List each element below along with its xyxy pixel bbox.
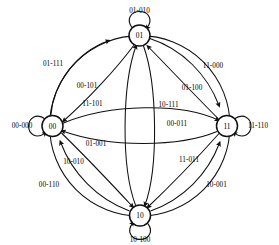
state-label-00: 00 bbox=[49, 122, 57, 131]
edge-label-11-to-01: 01-100 bbox=[182, 84, 203, 92]
edge-label-01-to-11: 11-000 bbox=[203, 62, 224, 70]
edge-label-11-to-10: 11-011 bbox=[179, 156, 199, 164]
edge-10-to-00 bbox=[61, 142, 130, 211]
edge-label-11-to-00: 00-011 bbox=[167, 120, 188, 128]
edge-00-to-11 bbox=[63, 108, 218, 123]
edge-01-to-11 bbox=[150, 39, 219, 106]
self-loop-label-10: 10-100 bbox=[130, 236, 151, 244]
edge-label-00-to-11: 11-101 bbox=[82, 100, 103, 108]
edge-label-00-to-01: 01-111 bbox=[43, 60, 63, 68]
self-loop-label-11: 11-110 bbox=[248, 122, 268, 130]
edge-label-01-to-00: 00-101 bbox=[77, 82, 98, 90]
edge-01-to-10 bbox=[144, 46, 155, 205]
state-label-11: 11 bbox=[223, 122, 230, 131]
state-label-01: 01 bbox=[136, 31, 144, 40]
edge-label-10-to-11: 10-001 bbox=[206, 181, 227, 189]
state-diagram-container: 01 00 11 10 01-010 00-000 11-110 10-100 … bbox=[0, 0, 279, 245]
state-diagram-canvas: 01 00 11 10 01-010 00-000 11-110 10-100 … bbox=[0, 0, 279, 245]
self-loop-label-00: 00-000 bbox=[12, 122, 33, 130]
state-node-01[interactable]: 01 bbox=[129, 25, 150, 46]
edge-label-10-to-01: 01-001 bbox=[86, 140, 107, 148]
state-node-00[interactable]: 00 bbox=[42, 116, 63, 137]
edge-11-to-10 bbox=[148, 134, 219, 208]
state-node-10[interactable]: 10 bbox=[130, 205, 151, 226]
state-node-11[interactable]: 11 bbox=[217, 116, 238, 137]
edge-01-to-00 bbox=[64, 45, 134, 121]
edge-label-00-to-10: 10-010 bbox=[63, 158, 84, 166]
edge-label-10-to-00: 00-110 bbox=[39, 181, 60, 189]
edge-10-to-01 bbox=[125, 46, 136, 205]
state-label-10: 10 bbox=[136, 211, 144, 220]
self-loop-label-01: 01-010 bbox=[129, 7, 150, 15]
edge-10-to-11 bbox=[151, 143, 220, 211]
edge-label-01-to-10: 10-111 bbox=[158, 101, 178, 109]
